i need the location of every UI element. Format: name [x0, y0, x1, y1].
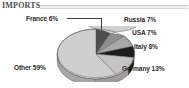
pie-label-germany: Germany 13%	[122, 65, 165, 72]
pie-chart: France 6% Russia 7% USA 7% Italy 8% Germ…	[0, 12, 189, 88]
pie-label-russia: Russia 7%	[124, 16, 156, 23]
chart-figure: IMPORTS	[0, 0, 189, 88]
figure-header: IMPORTS	[0, 1, 189, 12]
pie-label-usa: USA 7%	[132, 29, 156, 36]
pie-label-france: France 6%	[26, 15, 58, 22]
pie-label-other: Other 59%	[14, 64, 46, 71]
pie-label-italy: Italy 8%	[134, 43, 158, 50]
pie-graphic	[56, 26, 136, 82]
leader-line-france-horizontal	[67, 18, 102, 19]
page-title: IMPORTS	[2, 1, 40, 11]
pie-svg	[56, 26, 136, 82]
leader-line-france-vertical	[101, 18, 102, 29]
header-rule	[40, 5, 188, 9]
